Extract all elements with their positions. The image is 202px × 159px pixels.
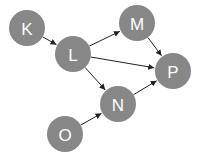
node-label: P xyxy=(167,63,178,82)
node-label: L xyxy=(68,46,77,65)
node-p: P xyxy=(155,53,191,89)
node-label: O xyxy=(58,126,71,145)
node-l: L xyxy=(55,36,91,72)
node-label: K xyxy=(21,20,33,39)
node-m: M xyxy=(119,5,155,41)
node-n: N xyxy=(100,86,136,122)
edge-l-to-m xyxy=(89,31,120,46)
graph-diagram: KLMPNO xyxy=(0,0,202,159)
node-label: N xyxy=(112,96,124,115)
edge-n-to-p xyxy=(133,81,156,95)
edge-m-to-p xyxy=(148,37,162,55)
node-label: M xyxy=(130,15,144,34)
node-k: K xyxy=(9,10,45,46)
node-o: O xyxy=(47,116,83,152)
edge-l-to-p xyxy=(91,57,155,68)
edge-o-to-n xyxy=(81,113,102,125)
edge-l-to-n xyxy=(85,67,105,89)
edge-k-to-l xyxy=(43,37,57,45)
